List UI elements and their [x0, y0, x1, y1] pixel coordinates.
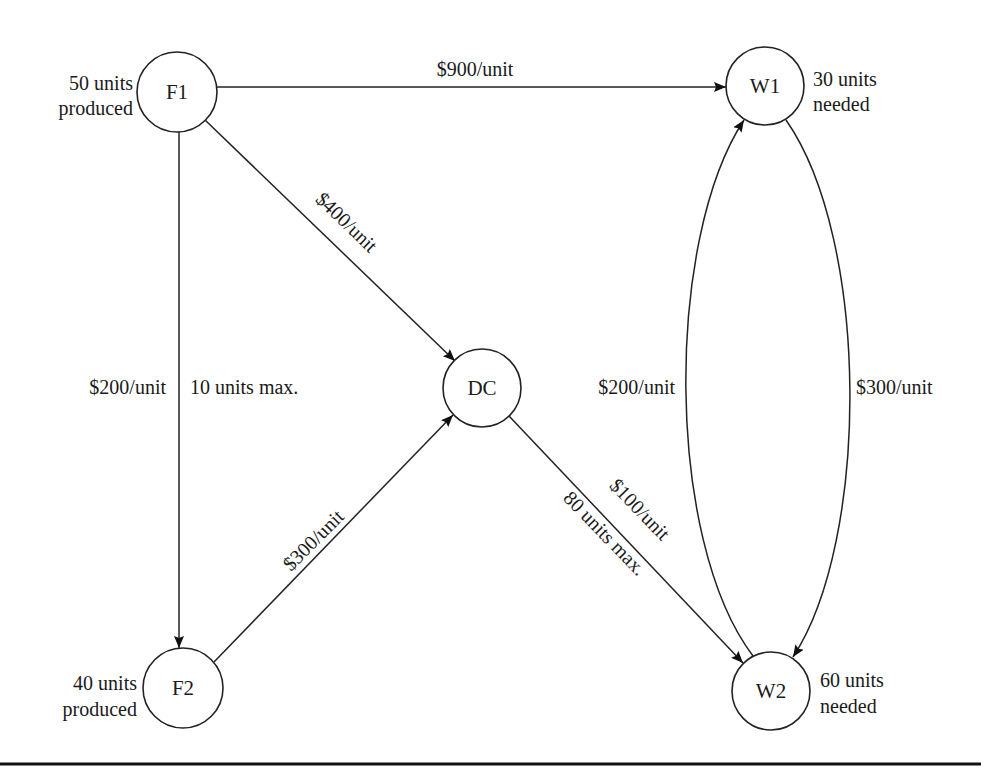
edge-f1-f2-cost: $200/unit: [89, 376, 166, 398]
f1-supply-line2: produced: [59, 97, 133, 120]
network-diagram: F1 F2 DC W1 W2 50 units produced 40 unit…: [0, 0, 1004, 777]
f1-supply-line1: 50 units: [69, 72, 133, 94]
edge-w1-w2-cost: $300/unit: [856, 376, 933, 398]
w2-demand-line1: 60 units: [820, 669, 884, 691]
svg-text:F1: F1: [166, 80, 188, 104]
edge-w2-w1: [686, 120, 753, 656]
node-f2: F2: [143, 648, 223, 728]
svg-text:DC: DC: [467, 376, 496, 400]
w1-demand-line1: 30 units: [813, 68, 877, 90]
svg-text:W2: W2: [756, 679, 786, 703]
edge-f1-dc-cost: $400/unit: [312, 187, 383, 256]
edge-f2-dc: [214, 415, 453, 662]
node-w1: W1: [726, 47, 804, 125]
f2-supply-line2: produced: [63, 698, 137, 721]
f2-supply-line1: 40 units: [73, 672, 137, 694]
w1-demand-line2: needed: [813, 93, 870, 115]
node-f1: F1: [137, 52, 217, 132]
edge-f1-f2-capacity: 10 units max.: [190, 376, 298, 398]
svg-text:W1: W1: [750, 74, 780, 98]
edge-f1-dc: [205, 120, 455, 361]
edge-w2-w1-cost: $200/unit: [598, 376, 675, 398]
edge-f1-w1-cost: $900/unit: [437, 58, 514, 80]
node-dc: DC: [443, 349, 521, 427]
edge-w1-w2: [786, 120, 850, 657]
edge-f2-dc-cost: $300/unit: [278, 505, 348, 575]
svg-text:F2: F2: [172, 676, 194, 700]
w2-demand-line2: needed: [820, 695, 877, 717]
node-w2: W2: [732, 652, 810, 730]
